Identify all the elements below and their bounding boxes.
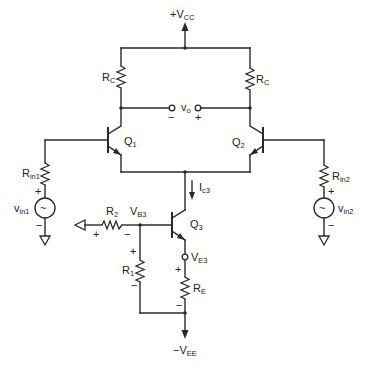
transistor-q1: Q1: [45, 126, 137, 172]
svg-text:−: −: [328, 219, 334, 231]
vcc-supply: +VCC: [170, 8, 195, 50]
resistor-rc-left: RC: [102, 48, 125, 125]
transistor-q2: Q2: [232, 126, 324, 172]
rc-right-label: RC: [256, 73, 270, 87]
ground-icon: [75, 220, 85, 230]
rin2-label: Rin2: [332, 170, 350, 184]
resistor-r1: VB3 + − R1: [122, 205, 147, 313]
input-source-2: Rin2 + ~ vin2 −: [314, 140, 354, 245]
arrow-down-icon: [182, 330, 189, 339]
current-ic3: Ic3: [189, 181, 210, 200]
vo-plus-sign: +: [195, 111, 201, 123]
output-terminal-minus: [169, 105, 175, 111]
ground-icon: [319, 236, 329, 245]
svg-text:+: +: [175, 263, 181, 275]
re-label: RE: [193, 282, 206, 296]
ground-icon: [40, 236, 50, 245]
svg-text:+: +: [130, 245, 136, 257]
vin1-label: vin1: [14, 202, 30, 216]
svg-text:+: +: [93, 228, 99, 240]
svg-text:~: ~: [319, 202, 325, 214]
arrow-up-icon: [182, 22, 189, 31]
input-source-1: Rin1 + ~ vin1 −: [14, 140, 55, 245]
svg-text:−: −: [36, 219, 42, 231]
svg-text:−: −: [124, 228, 130, 240]
ic3-label: Ic3: [199, 181, 210, 195]
r1-label: R1: [122, 264, 134, 278]
svg-text:−: −: [176, 299, 182, 311]
q2-label: Q2: [232, 136, 245, 150]
rc-left-label: RC: [102, 71, 116, 85]
ve3-label: VE3: [191, 251, 208, 265]
q1-label: Q1: [124, 135, 137, 149]
emitter-arrow-icon: [113, 148, 121, 155]
svg-text:+: +: [328, 185, 334, 197]
r2-label: R2: [106, 205, 118, 219]
arrow-down-icon: [189, 192, 195, 200]
resistor-re: + − RE: [175, 260, 206, 313]
rin1-label: Rin1: [22, 167, 40, 181]
output-terminals: vo − +: [121, 101, 250, 123]
svg-text:+: +: [35, 185, 41, 197]
output-terminal-plus: [195, 105, 201, 111]
q3-label: Q3: [190, 218, 203, 232]
emitter-arrow-icon: [177, 233, 185, 240]
emitter-arrow-icon: [250, 148, 258, 155]
svg-text:−: −: [131, 279, 137, 291]
vin2-label: vin2: [338, 202, 354, 216]
svg-text:~: ~: [40, 202, 46, 214]
resistor-rc-right: RC: [246, 48, 270, 125]
transistor-q3: Q3: [140, 172, 203, 254]
vee-label: −VEE: [173, 344, 197, 358]
vee-supply: −VEE: [140, 311, 197, 358]
vo-minus-sign: −: [168, 111, 174, 123]
vcc-label: +VCC: [170, 8, 195, 22]
vb3-label: VB3: [130, 205, 147, 219]
node-ve3: VE3: [182, 251, 207, 265]
vo-label: vo: [181, 101, 191, 115]
circuit-diagram: +VCC RC RC vo − + Q1: [0, 0, 372, 370]
